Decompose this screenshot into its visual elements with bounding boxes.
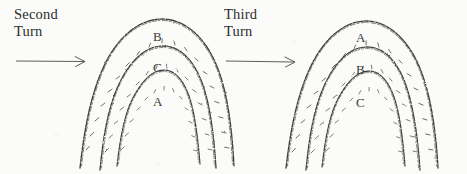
arrow-second-turn [16,57,85,67]
caption-third-turn-line1: Third [224,6,257,22]
arch-label-second-middle: C [153,60,162,76]
arch-third-inner [322,71,405,167]
caption-second-turn-line1: Second [14,6,58,22]
caption-second-turn-line2: Turn [14,23,58,40]
arch-label-second-outer: B [153,29,162,45]
arch-second-inner [117,70,200,166]
arch-label-third-outer: A [356,30,366,46]
arch-label-second-inner: A [153,94,163,110]
arrow-third-turn [226,57,295,67]
arch-label-third-middle: B [356,62,365,78]
arch-label-third-inner: C [356,95,365,111]
caption-third-turn: Third Turn [224,6,257,39]
figure-canvas: Second Turn Third Turn B C A A B C [0,0,467,174]
caption-second-turn: Second Turn [14,6,58,39]
caption-third-turn-line2: Turn [224,23,257,40]
